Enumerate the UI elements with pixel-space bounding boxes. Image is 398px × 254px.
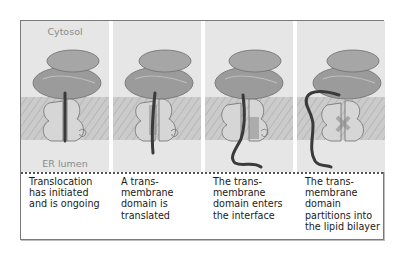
- panel-step-2: [113, 21, 201, 172]
- label-er-lumen: ER lumen: [21, 158, 109, 169]
- figure-frame: Cytosol ER lumen: [20, 20, 384, 240]
- panel-step-4: [297, 21, 385, 172]
- caption-step-2: A trans- membrane domain is translated: [113, 176, 201, 221]
- ribosome-small-subunit: [229, 50, 281, 72]
- caption-step-1: Translocation has initiated and is ongoi…: [21, 176, 109, 210]
- translocation-illustration-2: [113, 21, 201, 172]
- ribosome-small-subunit: [327, 50, 379, 72]
- dotted-divider: [21, 172, 383, 174]
- ribosome-small-subunit: [47, 50, 99, 72]
- panel-row: Cytosol ER lumen: [21, 21, 383, 172]
- translocation-illustration-3: [205, 21, 293, 172]
- translocation-illustration-1: [21, 21, 109, 172]
- translocon-left: [222, 103, 241, 141]
- label-cytosol: Cytosol: [21, 26, 109, 37]
- tm-domain-highlight: [249, 117, 259, 139]
- caption-step-3: The trans- membrane domain enters the in…: [205, 176, 293, 221]
- ribosome-small-subunit: [139, 50, 191, 72]
- panel-step-3: [205, 21, 293, 172]
- caption-step-4: The trans- membrane domain partitions in…: [297, 176, 385, 232]
- translocon-left: [322, 103, 341, 141]
- caption-row: Translocation has initiated and is ongoi…: [21, 176, 383, 238]
- translocation-illustration-4: [297, 21, 385, 172]
- panel-step-1: Cytosol ER lumen: [21, 21, 109, 172]
